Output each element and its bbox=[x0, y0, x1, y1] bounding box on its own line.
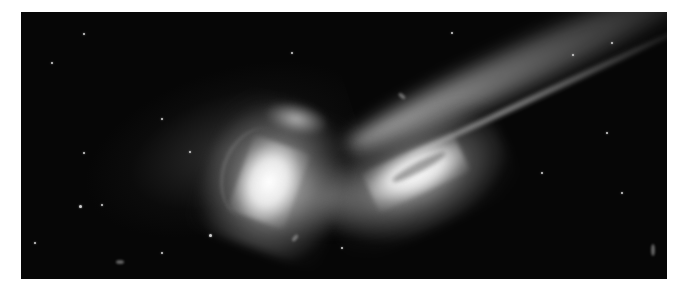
star bbox=[51, 62, 53, 64]
star bbox=[83, 33, 85, 35]
star bbox=[83, 152, 85, 154]
faint-galaxy bbox=[116, 260, 124, 264]
star bbox=[34, 242, 36, 244]
faint-galaxy bbox=[651, 244, 655, 256]
star bbox=[611, 42, 613, 44]
star bbox=[161, 252, 163, 254]
star bbox=[341, 247, 343, 249]
left-galaxy-core bbox=[227, 134, 311, 230]
left-galaxy-spiral-arm bbox=[208, 118, 308, 231]
left-galaxy-hook bbox=[264, 98, 329, 140]
star bbox=[161, 118, 163, 120]
tidal-tail bbox=[338, 12, 667, 167]
star bbox=[189, 151, 191, 153]
right-galaxy-dust-lane bbox=[390, 149, 448, 186]
star bbox=[541, 172, 543, 174]
star bbox=[572, 54, 574, 56]
galaxy-bridge bbox=[251, 162, 411, 232]
star bbox=[291, 52, 293, 54]
faint-galaxy bbox=[291, 234, 299, 243]
faint-galaxy bbox=[398, 92, 407, 100]
tidal-tail-core bbox=[405, 19, 667, 160]
star bbox=[451, 32, 453, 34]
star bbox=[79, 205, 82, 208]
star bbox=[101, 204, 103, 206]
right-galaxy-halo bbox=[307, 87, 526, 267]
star bbox=[621, 192, 623, 194]
star bbox=[606, 132, 608, 134]
right-galaxy-core bbox=[361, 131, 470, 213]
star bbox=[209, 234, 212, 237]
galaxy-image bbox=[21, 12, 667, 279]
left-galaxy-halo bbox=[185, 83, 368, 272]
left-tidal-fan bbox=[21, 12, 387, 279]
